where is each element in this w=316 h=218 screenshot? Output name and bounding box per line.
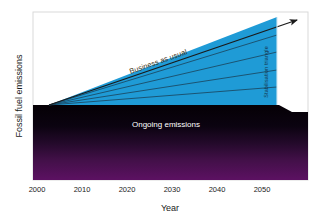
stabilisation-wedge-chart: 2000 2010 2020 2030 2040 2050 Year Fossi… (0, 0, 316, 218)
x-axis-ticks: 2000 2010 2020 2030 2040 2050 (29, 185, 271, 194)
x-axis-title: Year (161, 203, 179, 213)
x-tick-label: 2020 (119, 185, 136, 194)
x-tick-label: 2030 (164, 185, 181, 194)
x-tick-label: 2000 (29, 185, 46, 194)
annotation-stabilisation-triangle: Stabilisation triangle (263, 46, 269, 98)
x-tick-label: 2040 (209, 185, 226, 194)
figure-container: 2000 2010 2020 2030 2040 2050 Year Fossi… (0, 0, 316, 218)
x-tick-label: 2050 (254, 185, 271, 194)
y-axis-title: Fossil fuel emissions (14, 54, 24, 138)
ongoing-emissions-area (33, 105, 308, 180)
annotation-ongoing-emissions: Ongoing emissions (132, 120, 200, 129)
x-tick-label: 2010 (74, 185, 91, 194)
